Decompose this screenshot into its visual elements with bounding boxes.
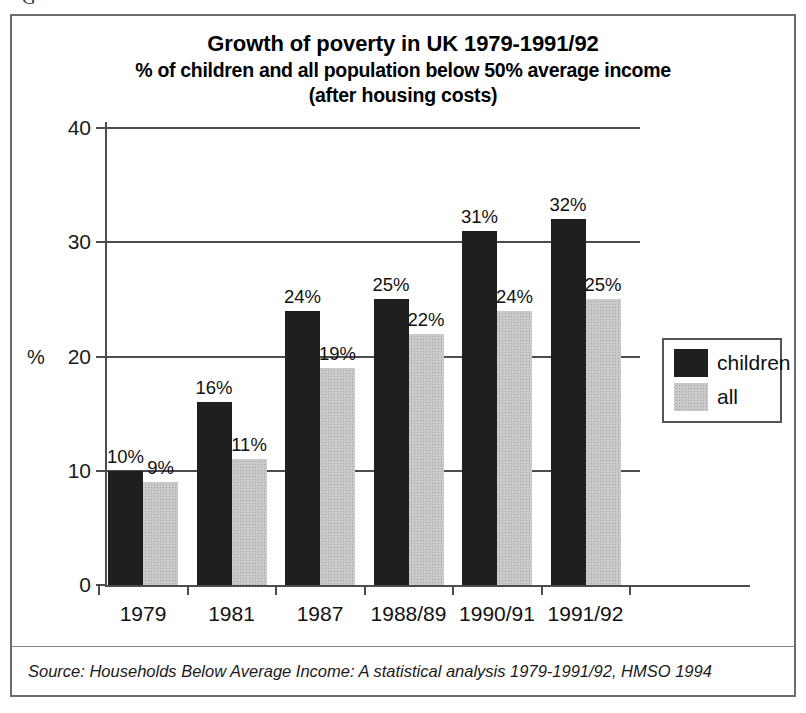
x-tick — [275, 585, 277, 595]
legend-label: all — [717, 385, 738, 409]
bar-value-label: 24% — [496, 286, 533, 308]
bar-value-label: 25% — [372, 274, 409, 296]
bar-value-label: 31% — [461, 206, 498, 228]
bar-children-1981 — [197, 402, 232, 585]
y-axis-label: 10 — [68, 459, 91, 483]
legend-item-children: children — [674, 349, 780, 377]
bar-value-label: 10% — [107, 446, 144, 468]
bar-value-label: 19% — [319, 343, 356, 365]
bar-all-1987 — [320, 368, 355, 585]
bar-value-label: 32% — [549, 194, 586, 216]
y-axis-label: 0 — [79, 573, 91, 597]
bar-value-label: 16% — [195, 377, 232, 399]
bar-children-1991/92 — [551, 219, 586, 585]
bar-children-1988/89 — [374, 299, 409, 585]
chart-title-block: Growth of poverty in UK 1979-1991/92 % o… — [12, 30, 794, 108]
bar-value-label: 25% — [584, 274, 621, 296]
x-axis-label-1979: 1979 — [120, 602, 167, 626]
x-tick — [98, 585, 100, 595]
x-tick — [364, 585, 366, 595]
y-axis-label: 20 — [68, 345, 91, 369]
x-tick — [629, 585, 631, 595]
x-axis-label-1981: 1981 — [208, 602, 255, 626]
page-corner-glyph: G — [22, 0, 36, 9]
x-axis-label-1988-89: 1988/89 — [371, 602, 447, 626]
y-axis-label: 40 — [68, 116, 91, 140]
bar-children-1979 — [108, 471, 143, 585]
y-tick-20 — [96, 356, 105, 358]
bar-all-1988/89 — [409, 334, 444, 585]
bar-children-1987 — [285, 311, 320, 585]
bar-all-1991/92 — [586, 299, 621, 585]
y-tick-40 — [96, 127, 105, 129]
chart-legend: childrenall — [662, 338, 782, 423]
figure-frame: Growth of poverty in UK 1979-1991/92 % o… — [10, 14, 796, 697]
bar-value-label: 24% — [284, 286, 321, 308]
source-divider — [12, 646, 794, 647]
legend-swatch-children — [674, 349, 708, 377]
bar-children-1990/91 — [462, 231, 497, 585]
chart-title: Growth of poverty in UK 1979-1991/92 — [12, 30, 794, 58]
x-tick — [452, 585, 454, 595]
bar-all-1981 — [232, 459, 267, 585]
y-axis-label: 30 — [68, 230, 91, 254]
bar-all-1990/91 — [497, 311, 532, 585]
x-axis-label-1987: 1987 — [297, 602, 344, 626]
x-axis-line — [105, 585, 750, 587]
chart-subtitle: % of children and all population below 5… — [12, 58, 794, 83]
source-note: Source: Households Below Average Income:… — [28, 662, 712, 681]
y-tick-30 — [96, 241, 105, 243]
x-tick — [541, 585, 543, 595]
bar-value-label: 9% — [147, 457, 174, 479]
legend-item-all: all — [674, 383, 780, 411]
x-axis-label-1990-91: 1990/91 — [459, 602, 535, 626]
x-axis-label-1991-92: 1991/92 — [548, 602, 624, 626]
bar-value-label: 22% — [407, 309, 444, 331]
y-tick-10 — [96, 470, 105, 472]
y-axis-unit-label: % — [27, 345, 45, 368]
legend-label: children — [717, 351, 791, 375]
legend-swatch-all — [674, 383, 708, 411]
y-axis-line — [105, 122, 107, 585]
chart-subtitle-secondary: (after housing costs) — [12, 83, 794, 108]
bar-value-label: 11% — [231, 434, 267, 456]
plot-area: % 010203040 10%9%16%11%24%19%25%22%31%24… — [105, 128, 640, 585]
x-tick — [187, 585, 189, 595]
gridline-40 — [105, 127, 640, 129]
bar-all-1979 — [143, 482, 178, 585]
